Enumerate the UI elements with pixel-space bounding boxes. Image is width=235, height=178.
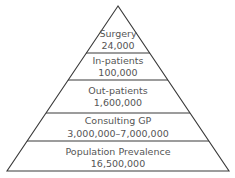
level-out-patients: Out-patients 1,600,000 (88, 85, 147, 108)
level-name: Population Prevalence (65, 146, 170, 157)
level-name: Out-patients (88, 85, 147, 96)
level-value: 100,000 (98, 67, 137, 78)
level-consulting-gp: Consulting GP 3,000,000–7,000,000 (67, 115, 168, 139)
level-value: 3,000,000–7,000,000 (67, 128, 168, 139)
pyramid-diagram: Surgery 24,000 In-patients 100,000 Out-p… (0, 0, 235, 178)
level-value: 16,500,000 (91, 158, 145, 169)
level-name: Consulting GP (85, 115, 152, 126)
level-surgery: Surgery 24,000 (99, 28, 137, 51)
level-name: Surgery (99, 28, 137, 39)
level-value: 24,000 (101, 40, 134, 51)
level-in-patients: In-patients 100,000 (92, 55, 143, 78)
level-population-prevalence: Population Prevalence 16,500,000 (65, 146, 170, 169)
level-name: In-patients (92, 55, 143, 66)
level-value: 1,600,000 (94, 97, 142, 108)
